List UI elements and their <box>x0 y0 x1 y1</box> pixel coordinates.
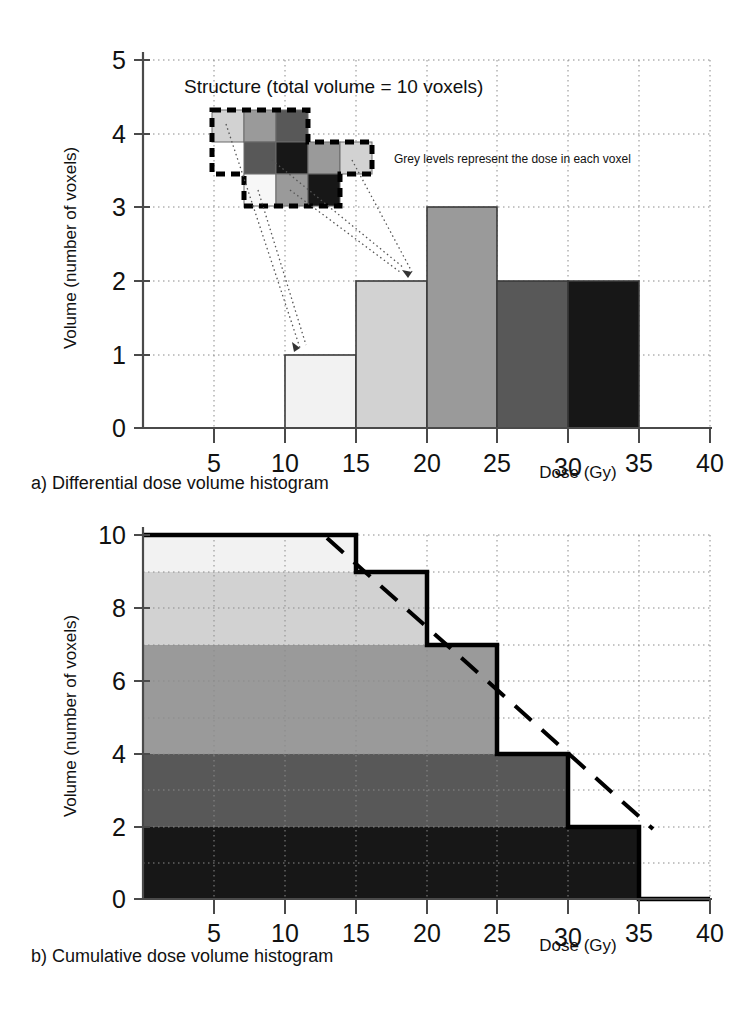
panel-a-y-axis-title: Volume (number of voxels) <box>61 147 80 349</box>
voxel-r2c3 <box>308 174 340 206</box>
panel-a-ytick-4: 4 <box>112 120 126 148</box>
bar-10-15 <box>285 355 356 428</box>
panel-a-caption: a) Differential dose volume histogram <box>31 473 329 493</box>
panel-a-xtick-40: 40 <box>696 449 724 477</box>
panel-b-ytick-2: 2 <box>112 813 126 841</box>
panel-b-ytick-6: 6 <box>112 667 126 695</box>
voxel-r0c0 <box>212 110 244 142</box>
panel-a-xtick-20: 20 <box>413 449 441 477</box>
bar-30-35 <box>568 281 639 428</box>
panel-b-ytick-8: 8 <box>112 594 126 622</box>
panel-b-ytick-4: 4 <box>112 740 126 768</box>
bar-25-30 <box>497 281 568 428</box>
panel-a-ytick-2: 2 <box>112 267 126 295</box>
panel-b-xtick-35: 35 <box>625 919 653 947</box>
panel-b-xtick-15: 15 <box>342 919 370 947</box>
panel-b-x-axis-title: Dose (Gy) <box>539 936 616 955</box>
figure-svg: 5 4 3 2 1 0 5 10 15 20 25 30 35 40 Volum… <box>0 0 752 1017</box>
panel-b-y-axis-title: Volume (number of voxels) <box>61 615 80 817</box>
panel-a-ytick-1: 1 <box>112 341 126 369</box>
panel-b-xtick-10: 10 <box>271 919 299 947</box>
panel-a-ytick-0: 0 <box>112 414 126 442</box>
voxel-r0c1 <box>244 110 276 142</box>
voxel-r2c2 <box>276 174 308 206</box>
panel-b-xtick-25: 25 <box>483 919 511 947</box>
voxel-r0c2 <box>276 110 308 142</box>
panel-b-xtick-20: 20 <box>413 919 441 947</box>
bar-20-25 <box>427 207 497 428</box>
panel-b-ytick-0: 0 <box>112 885 126 913</box>
dose-volume-histogram-figure: 5 4 3 2 1 0 5 10 15 20 25 30 35 40 Volum… <box>0 0 752 1017</box>
voxel-r1c3 <box>308 142 340 174</box>
voxel-r2c1 <box>244 174 276 206</box>
voxel-r1c4 <box>340 142 372 174</box>
panel-a-x-axis-title: Dose (Gy) <box>539 463 616 482</box>
panel-b-xtick-5: 5 <box>207 919 221 947</box>
panel-a-xtick-35: 35 <box>625 449 653 477</box>
panel-a-ytick-5: 5 <box>112 46 126 74</box>
voxel-r1c2 <box>276 142 308 174</box>
panel-b-ytick-10: 10 <box>98 521 126 549</box>
voxel-r1c1 <box>244 142 276 174</box>
panel-b-xtick-40: 40 <box>696 919 724 947</box>
bar-15-20 <box>356 281 427 428</box>
panel-a-grey-note: Grey levels represent the dose in each v… <box>394 152 631 166</box>
panel-b-caption: b) Cumulative dose volume histogram <box>31 946 333 966</box>
panel-a-xtick-15: 15 <box>342 449 370 477</box>
panel-a-xtick-25: 25 <box>483 449 511 477</box>
panel-a-structure-label: Structure (total volume = 10 voxels) <box>184 76 483 97</box>
panel-a-ytick-3: 3 <box>112 193 126 221</box>
